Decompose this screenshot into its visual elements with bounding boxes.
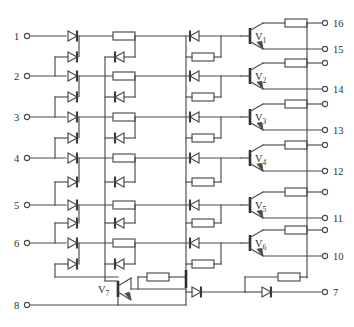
left-pin-3[interactable]: 3 xyxy=(14,112,66,123)
right-pin-12-label: 12 xyxy=(333,166,344,177)
transistor-V7-label: V7 xyxy=(98,284,110,298)
left-pin-8[interactable]: 8 xyxy=(14,300,118,311)
base-resistor-5 xyxy=(192,219,214,227)
right-pin-13-label: 13 xyxy=(333,125,344,136)
base-resistor-6 xyxy=(192,260,214,268)
base-resistor-4 xyxy=(192,178,214,186)
transistor-V2: V2 xyxy=(241,59,324,89)
bottom-stage: V7 xyxy=(98,270,324,305)
transistor-V7: V7 xyxy=(98,278,131,305)
diode-c-5 xyxy=(190,200,199,211)
diode-mid-2 xyxy=(68,92,77,103)
right-pin-11[interactable]: 11 xyxy=(322,213,343,224)
schematic-svg: 1 2 3 4 5 6 8 xyxy=(0,0,354,327)
output-diode-2 xyxy=(262,287,271,298)
right-pin-13[interactable]: 13 xyxy=(322,125,343,136)
transistor-V6: V6 xyxy=(241,226,324,256)
resistor-column-b xyxy=(105,32,135,281)
transistor-V1: V1 xyxy=(241,19,324,49)
right-pin-blank-5[interactable] xyxy=(322,227,327,232)
diode-in-6 xyxy=(68,238,77,249)
diode-mid-3 xyxy=(68,133,77,144)
left-pin-8-label: 8 xyxy=(14,300,19,311)
left-pin-5-label: 5 xyxy=(14,200,19,211)
collector-resistor-1 xyxy=(285,19,307,27)
right-pin-11-label: 11 xyxy=(333,213,343,224)
right-pin-12[interactable]: 12 xyxy=(322,166,343,177)
clamp-diode-b-5 xyxy=(115,218,124,229)
transistor-V3: V3 xyxy=(241,100,324,130)
transistor-V4: V4 xyxy=(241,141,324,171)
left-pin-group: 1 2 3 4 5 6 8 xyxy=(14,31,118,311)
resistor-b-2 xyxy=(113,72,135,80)
output-pullup-resistor xyxy=(278,273,300,281)
right-pin-blank-4[interactable] xyxy=(322,189,327,194)
diode-in-3 xyxy=(68,112,77,123)
left-pin-6-label: 6 xyxy=(14,238,19,249)
diode-c-6 xyxy=(190,238,199,249)
driver-transistor-group: V1 V2 V3 V4 xyxy=(241,19,324,256)
diode-mid-6 xyxy=(68,259,77,270)
right-pin-10-label: 10 xyxy=(333,251,344,262)
right-pin-15-label: 15 xyxy=(333,44,344,55)
collector-resistor-6 xyxy=(285,226,307,234)
right-pin-14-label: 14 xyxy=(333,84,344,95)
left-pin-6[interactable]: 6 xyxy=(14,238,66,249)
left-pin-4-label: 4 xyxy=(14,153,20,164)
right-pin-14[interactable]: 14 xyxy=(322,84,344,95)
right-pin-group: 16 15 14 13 12 11 xyxy=(322,18,344,298)
left-pin-3-label: 3 xyxy=(14,112,19,123)
right-pin-16[interactable]: 16 xyxy=(322,18,343,29)
row-wires-a-b xyxy=(79,36,113,243)
left-pin-4[interactable]: 4 xyxy=(14,153,66,164)
circuit-diagram-canvas: 1 2 3 4 5 6 8 xyxy=(0,0,354,327)
collector-resistor-2 xyxy=(285,59,307,67)
diode-c-4 xyxy=(190,153,199,164)
base-resistor-2 xyxy=(192,93,214,101)
feedback-resistor xyxy=(147,273,169,281)
output-diode-1 xyxy=(192,287,201,298)
resistor-b-6 xyxy=(113,239,135,247)
diode-mid-4 xyxy=(68,177,77,188)
diode-in-4 xyxy=(68,153,77,164)
diode-in-2 xyxy=(68,71,77,82)
diode-mid-5 xyxy=(68,218,77,229)
collector-resistor-3 xyxy=(285,100,307,108)
right-pin-blank-1[interactable] xyxy=(322,60,327,65)
right-pin-blank-3[interactable] xyxy=(322,142,327,147)
right-pin-10[interactable]: 10 xyxy=(322,251,343,262)
left-pin-5[interactable]: 5 xyxy=(14,200,66,211)
clamp-diode-b-2 xyxy=(115,92,124,103)
row-wires-b-c xyxy=(135,36,190,243)
clamp-diode-b-6 xyxy=(115,259,124,270)
base-resistor-1 xyxy=(192,53,214,61)
transistor-V5: V5 xyxy=(241,188,324,218)
diode-c-3 xyxy=(190,112,199,123)
right-pin-7[interactable]: 7 xyxy=(322,287,338,298)
collector-resistor-5 xyxy=(285,188,307,196)
diode-in-5 xyxy=(68,200,77,211)
diode-column-c xyxy=(186,31,241,282)
resistor-b-5 xyxy=(113,201,135,209)
resistor-b-4 xyxy=(113,154,135,162)
input-diode-column xyxy=(55,31,118,278)
clamp-diode-b-4 xyxy=(115,177,124,188)
left-pin-1[interactable]: 1 xyxy=(14,31,66,42)
right-pin-15[interactable]: 15 xyxy=(322,44,343,55)
resistor-b-1 xyxy=(113,32,135,40)
left-pin-2-label: 2 xyxy=(14,71,19,82)
clamp-diode-b-1 xyxy=(115,52,124,63)
diode-c-2 xyxy=(190,71,199,82)
base-resistor-3 xyxy=(192,134,214,142)
resistor-b-3 xyxy=(113,113,135,121)
left-pin-2[interactable]: 2 xyxy=(14,71,66,82)
left-pin-1-label: 1 xyxy=(14,31,19,42)
diode-c-1 xyxy=(190,31,199,42)
clamp-diode-b-3 xyxy=(115,133,124,144)
collector-resistor-4 xyxy=(285,141,307,149)
right-pin-16-label: 16 xyxy=(333,18,344,29)
right-pin-7-label: 7 xyxy=(333,287,338,298)
diode-in-1 xyxy=(68,31,77,42)
diode-mid-1 xyxy=(68,52,77,63)
right-pin-blank-2[interactable] xyxy=(322,101,327,106)
